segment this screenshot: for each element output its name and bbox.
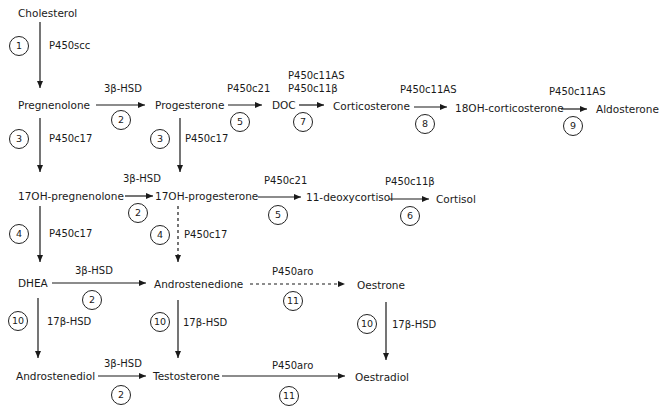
node-androstenedione: Androstenedione [154, 278, 243, 290]
node-17oh-pregnenolone: 17OH-pregnenolone [18, 190, 124, 202]
arrows-layer [0, 0, 659, 410]
node-cholesterol: Cholesterol [18, 7, 77, 19]
enzyme-3b-hsd-3: 3β-HSD [75, 265, 113, 277]
step-3-badge-2: 3 [150, 129, 170, 149]
step-2-badge-4: 2 [111, 385, 131, 405]
enzyme-p450c11b-1: P450c11β [288, 83, 338, 95]
step-11-badge-2: 11 [279, 386, 299, 406]
step-9-badge: 9 [563, 116, 583, 136]
enzyme-p450c17-1: P450c17 [49, 133, 92, 145]
enzyme-p450c17-4: P450c17 [184, 229, 227, 241]
step-2-badge-2: 2 [128, 203, 148, 223]
step-2-badge-3: 2 [82, 290, 102, 310]
enzyme-p450c21-1: P450c21 [227, 83, 270, 95]
step-2-badge: 2 [111, 110, 131, 130]
enzyme-3b-hsd-4: 3β-HSD [104, 358, 142, 370]
enzyme-3b-hsd-1: 3β-HSD [104, 83, 142, 95]
node-doc: DOC [272, 99, 296, 111]
enzyme-3b-hsd-2: 3β-HSD [123, 173, 161, 185]
enzyme-p450scc: P450scc [49, 40, 90, 52]
step-4-badge: 4 [9, 224, 29, 244]
node-pregnenolone: Pregnenolone [18, 99, 90, 111]
step-3-badge: 3 [9, 129, 29, 149]
step-5-badge-2: 5 [268, 205, 288, 225]
step-5-badge: 5 [230, 112, 250, 132]
node-oestrone: Oestrone [357, 279, 405, 291]
enzyme-17b-hsd-2: 17β-HSD [183, 317, 227, 329]
node-aldosterone: Aldosterone [596, 103, 659, 115]
enzyme-p450aro-2: P450aro [272, 360, 313, 372]
node-oestradiol: Oestradiol [355, 371, 409, 383]
enzyme-p450c17-3: P450c17 [49, 228, 92, 240]
enzyme-p450c11b-2: P450c11β [385, 176, 435, 188]
node-progesterone: Progesterone [155, 99, 224, 111]
step-7-badge: 7 [293, 112, 313, 132]
node-18oh-corticosterone: 18OH-corticosterone [455, 102, 564, 114]
enzyme-17b-hsd-1: 17β-HSD [47, 316, 91, 328]
enzyme-p450c17-2: P450c17 [185, 133, 228, 145]
step-10-badge-3: 10 [357, 314, 377, 334]
enzyme-p450aro-1: P450aro [272, 266, 313, 278]
step-11-badge: 11 [283, 291, 303, 311]
node-11-deoxycortisol: 11-deoxycortisol [306, 191, 393, 203]
enzyme-p450c11as-1: P450c11AS [288, 70, 345, 82]
enzyme-17b-hsd-3: 17β-HSD [392, 319, 436, 331]
node-androstenediol: Androstenediol [16, 370, 95, 382]
enzyme-p450c11as-2: P450c11AS [400, 84, 457, 96]
step-10-badge: 10 [8, 311, 28, 331]
enzyme-p450c11as-3: P450c11AS [549, 86, 606, 98]
step-10-badge-2: 10 [150, 312, 170, 332]
step-4-badge-2: 4 [150, 225, 170, 245]
step-8-badge: 8 [415, 114, 435, 134]
step-6-badge: 6 [400, 206, 420, 226]
node-17oh-progesterone: 17OH-progesterone [155, 190, 258, 202]
node-dhea: DHEA [18, 277, 48, 289]
node-cortisol: Cortisol [436, 193, 476, 205]
node-corticosterone: Corticosterone [333, 100, 410, 112]
step-1-badge: 1 [9, 36, 29, 56]
enzyme-p450c21-2: P450c21 [264, 175, 307, 187]
node-testosterone: Testosterone [153, 370, 220, 382]
